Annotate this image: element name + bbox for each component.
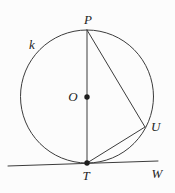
label-k: k — [29, 37, 35, 52]
chord-PU-line — [87, 30, 145, 127]
label-P: P — [83, 12, 92, 27]
diagram-canvas: P k O U T W — [0, 0, 175, 193]
center-point-O-dot — [84, 94, 89, 99]
label-U: U — [151, 119, 162, 134]
chord-TU-line — [87, 127, 145, 163]
point-T-dot — [84, 160, 89, 165]
tangent-line-W — [8, 161, 158, 166]
label-W: W — [152, 166, 164, 181]
label-O: O — [68, 89, 78, 104]
label-T: T — [82, 168, 90, 183]
geometry-figure: P k O U T W — [0, 0, 175, 193]
